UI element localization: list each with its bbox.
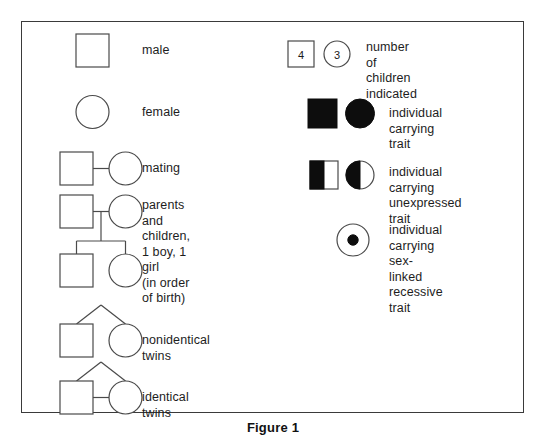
legend-label-identical-twins: identical twins <box>142 390 189 421</box>
legend-label-female: female <box>142 105 180 121</box>
legend-label-male: male <box>142 43 170 59</box>
legend-label-parents-children: parents and children, 1 boy, 1 girl (in … <box>142 198 190 307</box>
legend-label-carrying-trait: individual carrying trait <box>389 106 442 153</box>
symbol-filled-square-circle <box>280 88 385 138</box>
legend-label-nonidentical-twins: nonidentical twins <box>142 333 210 364</box>
symbol-circle-outline <box>22 84 152 134</box>
symbol-circle-with-dot <box>280 208 385 263</box>
legend-label-sex-linked-recessive: individual carrying sex-linked recessive… <box>389 223 443 316</box>
symbol-twins-fraternal <box>22 300 152 358</box>
figure-border: male female mating parents and childr <box>21 21 524 413</box>
symbol-pedigree-two-children <box>22 190 152 300</box>
symbol-twins-identical <box>22 357 152 415</box>
children-count-square-value: 4 <box>298 49 304 61</box>
symbol-square-outline <box>22 22 152 72</box>
figure-caption: Figure 1 <box>0 420 546 435</box>
symbol-square-line-circle <box>22 140 152 195</box>
children-count-circle-value: 3 <box>334 49 340 61</box>
symbol-half-filled-square-circle <box>280 147 385 197</box>
legend-label-mating: mating <box>142 161 180 177</box>
legend-label-unexpressed-trait: individual carrying unexpressed trait <box>389 165 462 227</box>
